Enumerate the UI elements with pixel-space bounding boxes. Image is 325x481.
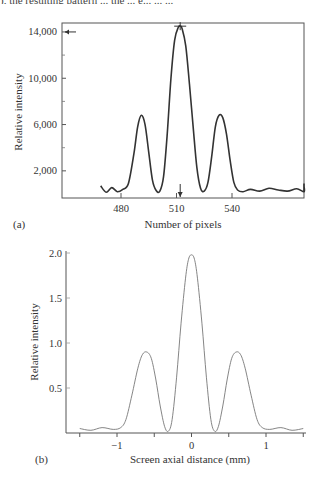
y-axis-label: Relative intensity	[28, 303, 40, 381]
down-arrow-icon	[178, 192, 183, 197]
figure: 2,0006,00010,00014,000 480510540 Relativ…	[0, 0, 325, 481]
chart-panel-b: 0.51.01.52.0 −101 Relative intensity Scr…	[28, 248, 306, 467]
x-tick-label: −1	[111, 440, 122, 451]
chart-panel-a: 2,0006,00010,00014,000 480510540 Relativ…	[12, 22, 305, 231]
y-axis-ticks: 0.51.01.52.0	[49, 248, 70, 394]
peak-markers	[65, 22, 186, 197]
x-tick-label: 510	[169, 203, 185, 214]
y-tick-label: 0.5	[49, 383, 62, 394]
x-axis-label: Number of pixels	[145, 218, 222, 230]
y-tick-label: 1.5	[49, 293, 62, 304]
x-axis-ticks: −101	[80, 433, 304, 451]
y-axis-ticks: 2,0006,00010,00014,000	[28, 26, 66, 176]
intensity-curve	[101, 26, 305, 193]
y-tick-label: 2,000	[33, 165, 57, 176]
x-axis-label: Screen axial distance (mm)	[130, 453, 250, 466]
panel-label-b: (b)	[35, 453, 48, 466]
x-tick-label: 480	[113, 203, 129, 214]
x-tick-label: 540	[224, 203, 240, 214]
y-tick-label: 14,000	[28, 26, 57, 37]
y-tick-label: 6,000	[33, 119, 57, 130]
x-axis-ticks: 480510540	[113, 193, 240, 214]
x-tick-label: 1	[263, 440, 268, 451]
intensity-curve	[80, 255, 304, 432]
y-axis-label: Relative intensity	[12, 73, 24, 151]
panel-label-a: (a)	[13, 218, 26, 231]
x-tick-label: 0	[189, 440, 194, 451]
y-tick-label: 2.0	[49, 248, 62, 259]
left-arrow-icon	[65, 29, 69, 34]
y-tick-label: 1.0	[49, 338, 62, 349]
y-tick-label: 10,000	[28, 73, 57, 84]
plot-frame	[62, 23, 304, 198]
